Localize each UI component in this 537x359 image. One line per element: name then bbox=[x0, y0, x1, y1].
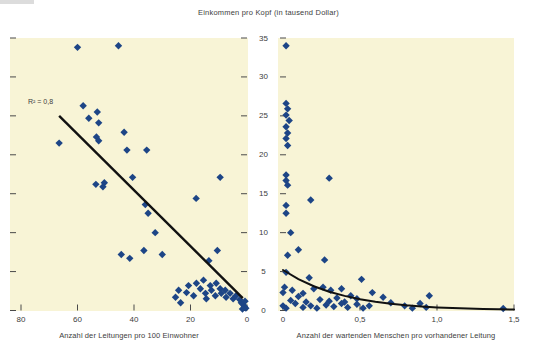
y-tick-label: 0 bbox=[261, 306, 266, 315]
y-tick-label: 25 bbox=[259, 111, 268, 120]
plot-area-right bbox=[278, 38, 514, 311]
x-tick-label: 0 bbox=[281, 315, 286, 324]
x-tick-label: 1,0 bbox=[431, 315, 443, 324]
x-tick-label: 80 bbox=[17, 315, 26, 324]
x-tick-label: 0,5 bbox=[354, 315, 366, 324]
x-tick-label: 40 bbox=[130, 315, 139, 324]
x-tick-label: 60 bbox=[73, 315, 82, 324]
left-x-axis-label: Anzahl der Leitungen pro 100 Einwohner bbox=[10, 331, 248, 340]
x-tick-label: 1,5 bbox=[508, 315, 520, 324]
y-tick-label: 30 bbox=[259, 72, 268, 81]
y-tick-label: 35 bbox=[259, 34, 268, 43]
y-tick-label: 20 bbox=[259, 150, 268, 159]
chart-page: Einkommen pro Kopf (in tausend Dollar) 8… bbox=[0, 0, 537, 359]
right-x-axis-label: Anzahl der wartenden Menschen pro vorhan… bbox=[278, 331, 514, 340]
x-tick-label: 0 bbox=[245, 315, 250, 324]
y-tick-label: 15 bbox=[259, 189, 268, 198]
y-tick-label: 10 bbox=[259, 228, 268, 237]
scatter-plots-svg: 80604020000,51,01,505101520253035 bbox=[0, 0, 537, 359]
x-tick-label: 20 bbox=[186, 315, 195, 324]
plot-area-left bbox=[10, 38, 248, 311]
r-squared-annotation: R² = 0,8 bbox=[28, 98, 53, 105]
y-tick-label: 5 bbox=[261, 267, 266, 276]
